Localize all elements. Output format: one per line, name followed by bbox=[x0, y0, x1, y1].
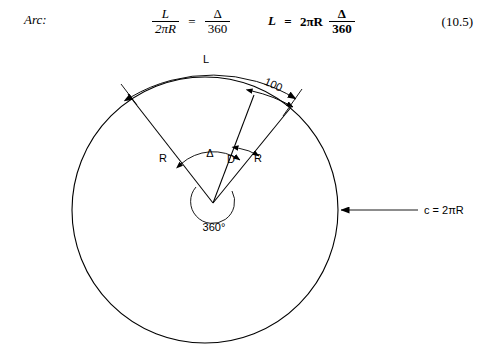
arc-geometry-diagram: L 100 R R Δ D 360° c = 2πR bbox=[0, 44, 487, 362]
equation-lhs-L: L bbox=[268, 13, 276, 28]
radius-line-right bbox=[213, 106, 292, 203]
equation-proportion: L 2πR = Δ 360 bbox=[152, 7, 230, 36]
fraction-denominator-2piR: 2πR bbox=[152, 22, 179, 36]
arc-length-label: L bbox=[203, 53, 209, 65]
fraction-numerator-L: L bbox=[152, 7, 179, 22]
full-circle-arc bbox=[191, 187, 235, 223]
circumference-label: c = 2πR bbox=[424, 204, 464, 216]
equation-number: (10.5) bbox=[442, 14, 473, 30]
main-circle bbox=[72, 77, 338, 343]
solved-numerator-delta: Δ bbox=[329, 7, 355, 22]
fraction-delta-over-360-solved: Δ 360 bbox=[329, 7, 355, 36]
equation-solved-for-L: L = 2πR Δ 360 bbox=[268, 7, 355, 36]
radius-line-middle bbox=[213, 95, 254, 203]
full-circle-label: 360° bbox=[203, 221, 226, 233]
solved-denominator-360: 360 bbox=[329, 22, 355, 36]
equals-sign-1: = bbox=[182, 14, 201, 30]
fraction-arc-over-circumference: L 2πR bbox=[152, 7, 179, 36]
diagram-canvas: L 100 R R Δ D 360° c = 2πR bbox=[0, 44, 487, 362]
equation-row: Arc: L 2πR = Δ 360 L = 2πR Δ 360 (10.5) bbox=[0, 0, 487, 48]
figure-page: Arc: L 2πR = Δ 360 L = 2πR Δ 360 (10.5) bbox=[0, 0, 487, 362]
fraction-delta-over-360: Δ 360 bbox=[205, 7, 231, 36]
equals-sign-2: = bbox=[279, 14, 296, 30]
radius-line-left bbox=[128, 94, 213, 203]
coefficient-2piR: 2πR bbox=[300, 14, 326, 30]
fraction-denominator-360: 360 bbox=[205, 22, 231, 36]
equation-tag-arc: Arc: bbox=[24, 12, 47, 28]
delta-angle-label: Δ bbox=[206, 147, 214, 159]
fraction-numerator-delta: Δ bbox=[205, 7, 231, 22]
radius-label-left: R bbox=[159, 152, 167, 164]
degree-of-curve-label: D bbox=[227, 153, 235, 165]
